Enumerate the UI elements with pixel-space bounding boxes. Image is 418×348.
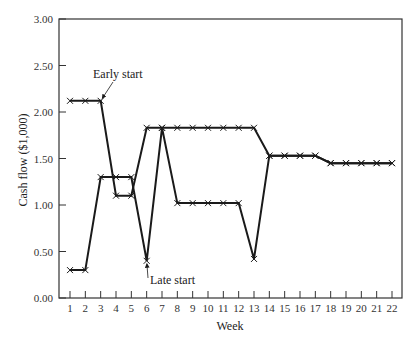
x-tick-label: 6: [144, 302, 150, 314]
x-tick-label: 3: [98, 302, 104, 314]
y-tick-label: 0.00: [34, 292, 54, 304]
x-tick-label: 20: [356, 302, 368, 314]
x-tick-label: 19: [341, 302, 353, 314]
x-tick-label: 9: [190, 302, 196, 314]
x-tick-label: 4: [113, 302, 119, 314]
x-tick-label: 11: [218, 302, 229, 314]
y-axis-label: Cash flow ($1,000): [16, 114, 30, 207]
x-tick-label: 8: [175, 302, 181, 314]
y-axis-ticks: 0.000.501.001.502.002.503.00: [34, 13, 66, 304]
y-tick-label: 1.00: [34, 199, 54, 211]
y-tick-label: 2.00: [34, 106, 54, 118]
cash-flow-chart: 0.000.501.001.502.002.503.00 12345678910…: [0, 0, 418, 348]
series-lines: [67, 98, 395, 273]
x-tick-label: 18: [325, 302, 337, 314]
annotation-label: Early start: [93, 67, 143, 81]
y-tick-label: 2.50: [34, 60, 54, 72]
x-tick-label: 10: [203, 302, 215, 314]
x-tick-label: 14: [264, 302, 276, 314]
x-tick-label: 16: [295, 302, 307, 314]
x-tick-label: 21: [371, 302, 382, 314]
annotation-arrow-icon: [147, 264, 148, 278]
x-tick-label: 13: [249, 302, 261, 314]
x-tick-label: 15: [279, 302, 291, 314]
x-tick-label: 2: [83, 302, 89, 314]
x-tick-label: 7: [159, 302, 165, 314]
x-tick-label: 12: [233, 302, 244, 314]
x-tick-label: 1: [67, 302, 73, 314]
x-axis-label: Week: [216, 319, 243, 333]
annotation-arrow-icon: [102, 82, 113, 98]
x-tick-label: 22: [387, 302, 398, 314]
y-tick-label: 3.00: [34, 13, 54, 25]
series-late-start: [70, 128, 392, 270]
y-tick-label: 0.50: [34, 246, 54, 258]
x-tick-label: 17: [310, 302, 322, 314]
series-early-start: [70, 101, 392, 196]
x-tick-label: 5: [129, 302, 135, 314]
annotation-label: Late start: [150, 273, 196, 287]
x-axis-ticks: 12345678910111213141516171819202122: [67, 291, 397, 314]
y-tick-label: 1.50: [34, 153, 54, 165]
